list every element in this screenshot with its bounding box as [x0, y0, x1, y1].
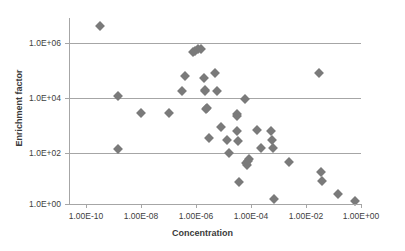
data-point	[269, 194, 279, 204]
data-point	[233, 136, 243, 146]
x-tick-1e-8	[141, 204, 142, 208]
x-tick-label-1e-2: 1.00E-02	[276, 211, 336, 221]
data-point	[200, 86, 210, 96]
x-tick-label-1e-6: 1.00E-06	[166, 211, 226, 221]
y-tick-1e6	[65, 43, 69, 44]
data-point	[204, 133, 214, 143]
data-point	[222, 135, 232, 145]
data-point	[212, 86, 222, 96]
y-tick-1e2	[65, 153, 69, 154]
x-tick-1e0	[361, 204, 362, 208]
data-point	[317, 176, 327, 186]
y-tick-1e0	[65, 204, 69, 205]
x-axis-line	[69, 204, 362, 205]
data-point	[199, 73, 209, 83]
data-point	[314, 68, 324, 78]
x-tick-1e-10	[86, 204, 87, 208]
data-point	[164, 108, 174, 118]
data-point-layer	[69, 18, 361, 204]
data-point	[113, 144, 123, 154]
x-tick-label-1e-10: 1.00E-10	[56, 211, 116, 221]
data-point	[224, 148, 234, 158]
data-point	[136, 108, 146, 118]
y-axis-line	[69, 18, 70, 204]
data-point	[180, 71, 190, 81]
x-tick-1e-6	[196, 204, 197, 208]
data-point	[232, 126, 242, 136]
x-tick-1e-4	[251, 204, 252, 208]
data-point	[234, 177, 244, 187]
data-point	[257, 143, 267, 153]
data-point	[216, 122, 226, 132]
data-point	[113, 91, 123, 101]
x-axis-title: Concentration	[0, 228, 405, 238]
data-point	[333, 189, 343, 199]
y-tick-1e4	[65, 98, 69, 99]
data-point	[268, 143, 278, 153]
data-point	[95, 21, 105, 31]
data-point	[210, 68, 220, 78]
y-axis-title: Enrichment factor	[14, 43, 24, 173]
data-point	[252, 125, 262, 135]
plot-area	[69, 18, 361, 204]
data-point	[240, 94, 250, 104]
x-tick-1e-2	[306, 204, 307, 208]
y-tick-label-1e0: 1.0E+00	[5, 199, 61, 209]
x-tick-label-1e0: 1.00E+00	[331, 211, 391, 221]
x-tick-label-1e-8: 1.00E-08	[111, 211, 171, 221]
data-point	[284, 157, 294, 167]
x-tick-label-1e-4: 1.00E-04	[221, 211, 281, 221]
scatter-chart: 1.0E+06 1.0E+04 1.0E+02 1.0E+00 1.00E-10…	[0, 0, 405, 251]
data-point	[177, 86, 187, 96]
